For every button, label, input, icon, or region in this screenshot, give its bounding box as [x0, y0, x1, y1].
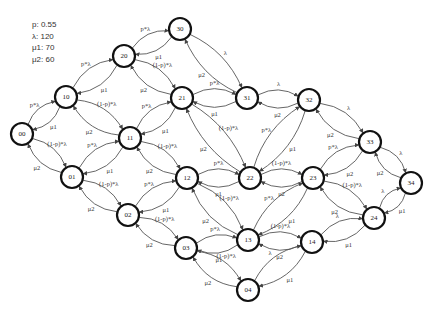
edge-label: μ2 [377, 169, 384, 176]
edge-11-to-10: μ2 [73, 106, 118, 135]
state-node-03: 03 [175, 237, 197, 259]
edge-label: μ2 [140, 86, 147, 93]
arrow-icon [259, 232, 301, 238]
edge-03-to-13: p*λ [196, 225, 236, 243]
edge-24-to-34: λ [380, 187, 401, 208]
node-label: 00 [19, 130, 27, 138]
arrow-icon [131, 65, 171, 94]
node-label: 33 [367, 138, 375, 146]
edge-21-to-22: (1-p)*λ [192, 104, 246, 167]
arrow-icon [79, 186, 117, 212]
arrow-icon [73, 59, 113, 87]
edge-label: (1-p)*λ [153, 61, 173, 69]
node-label: 34 [408, 179, 416, 187]
edge-label: λ [269, 249, 273, 256]
node-label: 12 [184, 174, 192, 182]
state-transition-diagram: p*λμ1(1-p)*λμ2p*λμ1(1-p)*λμ2p*λμ1(1-p)*λ… [0, 0, 440, 316]
arrow-icon [83, 147, 123, 174]
edge-31-to-32: λ [258, 80, 298, 96]
state-node-24: 24 [363, 207, 385, 229]
edge-label: μ2 [274, 111, 281, 118]
edge-03-to-04: (1-p)*λ [197, 251, 241, 281]
edge-label: μ2 [205, 279, 212, 286]
edge-label: (1-p)*λ [272, 159, 292, 167]
arrow-icon [321, 218, 362, 234]
node-label: 01 [69, 173, 77, 181]
edge-20-to-30: p*λ [132, 25, 168, 48]
edge-label: (1-p)*λ [158, 142, 178, 150]
edge-label: (1-p)*λ [99, 180, 119, 188]
arrow-icon [136, 223, 175, 245]
node-label: 02 [125, 211, 133, 219]
node-label: 24 [371, 214, 379, 222]
node-label: 11 [127, 134, 134, 142]
edge-32-to-33: λ [320, 103, 363, 133]
arrow-icon [141, 107, 176, 134]
edge-label: μ2 [202, 217, 209, 224]
state-node-20: 20 [113, 45, 135, 67]
state-node-00: 00 [11, 123, 33, 145]
arrow-icon [73, 106, 118, 135]
node-label: 03 [183, 244, 191, 252]
state-node-33: 33 [359, 131, 381, 153]
edge-label: p*λ [214, 159, 225, 166]
edge-14-to-13: μ2 [259, 244, 301, 260]
edge-label: μ1 [399, 207, 406, 214]
arrow-icon [255, 246, 301, 281]
edge-20-to-21: (1-p)*λ [135, 60, 175, 89]
edge-label: μ2 [88, 205, 95, 212]
state-node-34: 34 [400, 172, 422, 194]
edge-label: p*λ [87, 141, 98, 148]
edge-label: μ2 [34, 164, 41, 171]
edge-label: p*λ [81, 60, 92, 67]
edge-21-to-31: p*λ [193, 79, 236, 94]
edge-13-to-14: (1-p)*λ [259, 222, 301, 238]
edge-label: p*λ [264, 194, 275, 201]
node-label: 32 [306, 96, 314, 104]
edge-02-to-01: μ2 [79, 186, 117, 212]
arrow-icon [79, 141, 119, 168]
edge-10-to-11: (1-p)*λ [77, 100, 122, 129]
arrow-icon [258, 90, 298, 96]
edge-label: (1-p)*λ [97, 100, 117, 108]
edge-label: p*λ [142, 102, 153, 109]
edge-label: (1-p)*λ [271, 222, 291, 230]
arrow-icon [192, 104, 246, 167]
node-label: 30 [177, 25, 185, 33]
arrow-icon [135, 181, 175, 206]
edge-label: μ2 [200, 145, 207, 152]
node-label: 21 [179, 94, 187, 102]
edge-label: μ1 [101, 86, 108, 93]
node-label: 22 [247, 174, 255, 182]
arrow-icon [193, 102, 236, 108]
arrow-icon [316, 109, 359, 139]
arrow-icon [77, 65, 117, 93]
arrow-icon [324, 151, 362, 175]
edge-label: λ [277, 80, 281, 87]
edges-layer: p*λμ1(1-p)*λμ2p*λμ1(1-p)*λμ2p*λμ1(1-p)*λ… [28, 25, 406, 286]
edge-32-to-31: μ2 [258, 102, 298, 118]
edge-02-to-12: p*λ [135, 180, 175, 207]
arrow-icon [139, 187, 179, 212]
edge-label: μ1 [155, 53, 162, 60]
state-node-23: 23 [302, 167, 324, 189]
edge-label: μ2 [327, 131, 334, 138]
state-node-14: 14 [301, 231, 323, 253]
edge-01-to-11: p*λ [79, 141, 119, 168]
state-node-31: 31 [236, 87, 258, 109]
edge-label: λ [347, 104, 351, 111]
arrow-icon [320, 145, 358, 169]
edge-12-to-02: μ1 [139, 187, 179, 214]
edge-11-to-21: p*λ [137, 102, 172, 129]
arrow-icon [320, 187, 363, 215]
edge-01-to-02: (1-p)*λ [83, 180, 121, 206]
edge-23-to-33: p*λ [320, 143, 358, 169]
arrow-icon [132, 31, 168, 49]
edge-label: (1-p)*λ [216, 252, 236, 260]
edge-label: μ2 [198, 71, 205, 78]
node-label: 04 [245, 286, 253, 294]
edge-30-to-20: μ1 [135, 37, 171, 60]
state-node-02: 02 [117, 204, 139, 226]
edge-label: μ2 [346, 170, 353, 177]
edge-label: (1-p)*λ [343, 181, 363, 189]
